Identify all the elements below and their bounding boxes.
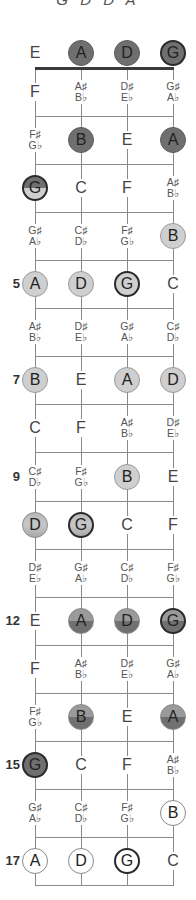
note-cell: F — [20, 77, 50, 107]
note-cell: G♯A♭ — [112, 317, 142, 347]
note-label: F — [120, 179, 134, 197]
scale-note-marker: D — [68, 271, 94, 297]
note-cell: A — [20, 269, 50, 299]
note-label: F — [166, 516, 180, 534]
note-cell: A — [66, 606, 96, 636]
note-cell: F♯G♭ — [20, 125, 50, 155]
note-cell: G — [20, 173, 50, 203]
enharmonic-label: A♯B♭ — [166, 753, 180, 777]
note-cell: G — [66, 510, 96, 540]
note-cell: C♯D♭ — [158, 317, 188, 347]
enharmonic-label: A♯B♭ — [120, 416, 134, 440]
nut-line — [35, 67, 174, 70]
enharmonic-label: A♯B♭ — [166, 176, 180, 200]
fret-line — [35, 260, 174, 261]
enharmonic-label: F♯G♭ — [27, 128, 42, 152]
fret-number: 5 — [2, 276, 20, 291]
scale-note-marker: B — [160, 800, 186, 826]
enharmonic-label: D♯E♭ — [120, 80, 135, 104]
enharmonic-label: C♯D♭ — [120, 561, 135, 585]
note-cell: F — [112, 173, 142, 203]
note-cell: B — [20, 365, 50, 395]
note-label: E — [120, 708, 135, 726]
flat-name: G♭ — [120, 813, 133, 824]
note-cell: B — [158, 221, 188, 251]
note-cell: B — [158, 798, 188, 828]
note-cell: C — [158, 269, 188, 299]
sharp-name: F♯ — [167, 562, 179, 573]
note-label: E — [120, 131, 135, 149]
note-cell: A — [158, 702, 188, 732]
note-cell: B — [66, 125, 96, 155]
scale-note-marker: D — [22, 512, 48, 538]
enharmonic-label: C♯D♭ — [74, 224, 89, 248]
note-cell: D — [66, 846, 96, 876]
sharp-name: G♯ — [74, 562, 87, 573]
fret-line — [35, 501, 174, 502]
flat-name: D♭ — [29, 477, 42, 488]
scale-note-marker: A — [68, 40, 94, 66]
fret-line — [35, 116, 174, 117]
note-cell: F — [20, 654, 50, 684]
scale-note-marker: B — [22, 367, 48, 393]
note-cell: E — [20, 38, 50, 68]
scale-note-marker: D — [68, 848, 94, 874]
note-cell: D♯E♭ — [20, 558, 50, 588]
note-cell: D — [112, 38, 142, 68]
note-cell: E — [158, 462, 188, 492]
root-note-marker: G — [68, 512, 94, 538]
note-cell: G♯A♭ — [20, 798, 50, 828]
note-label: E — [28, 44, 43, 62]
note-cell: A — [20, 846, 50, 876]
sharp-name: C♯ — [121, 562, 134, 573]
flat-name: B♭ — [121, 428, 133, 439]
enharmonic-label: G♯A♭ — [165, 80, 180, 104]
flat-name: A♭ — [167, 669, 179, 680]
fret-line — [35, 164, 174, 165]
note-cell: G — [20, 750, 50, 780]
note-cell: A♯B♭ — [112, 413, 142, 443]
note-cell: C — [112, 510, 142, 540]
note-cell: D — [20, 510, 50, 540]
note-cell: A — [158, 125, 188, 155]
flat-name: B♭ — [75, 669, 87, 680]
fret-line — [35, 885, 174, 886]
flat-name: G♭ — [28, 717, 41, 728]
note-cell: G♯A♭ — [158, 77, 188, 107]
enharmonic-label: G♯A♭ — [165, 657, 180, 681]
note-cell: F — [66, 413, 96, 443]
flat-name: G♭ — [28, 140, 41, 151]
note-cell: G — [158, 38, 188, 68]
root-note-marker: G — [114, 848, 140, 874]
note-cell: C♯D♭ — [66, 798, 96, 828]
note-cell: F — [158, 510, 188, 540]
enharmonic-label: A♯B♭ — [74, 657, 88, 681]
note-cell: D — [66, 269, 96, 299]
note-cell: G — [112, 846, 142, 876]
flat-name: G♭ — [74, 477, 87, 488]
scale-note-marker: A — [68, 608, 94, 634]
enharmonic-label: G♯A♭ — [27, 224, 42, 248]
note-label: E — [74, 371, 89, 389]
note-cell: F♯G♭ — [158, 558, 188, 588]
note-cell: F♯G♭ — [20, 702, 50, 732]
note-cell: D — [158, 365, 188, 395]
flat-name: B♭ — [167, 765, 179, 776]
note-label: C — [27, 419, 43, 437]
sharp-name: C♯ — [29, 466, 42, 477]
note-cell: B — [66, 702, 96, 732]
note-cell: D♯E♭ — [66, 317, 96, 347]
root-note-marker: G — [22, 752, 48, 778]
enharmonic-label: D♯E♭ — [28, 561, 43, 585]
note-cell: G — [112, 269, 142, 299]
enharmonic-label: D♯E♭ — [120, 657, 135, 681]
scale-note-marker: B — [68, 127, 94, 153]
enharmonic-label: F♯G♭ — [119, 801, 134, 825]
note-cell: F♯G♭ — [112, 221, 142, 251]
fret-line — [35, 549, 174, 550]
note-label: F — [120, 756, 134, 774]
note-cell: C♯D♭ — [112, 558, 142, 588]
sharp-name: D♯ — [29, 562, 42, 573]
enharmonic-label: G♯A♭ — [119, 320, 134, 344]
note-cell: G♯A♭ — [66, 558, 96, 588]
